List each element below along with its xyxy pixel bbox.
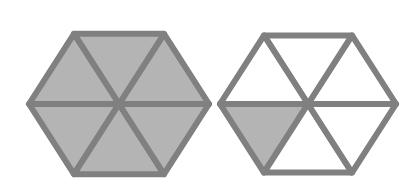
hexagon-left [29,34,209,174]
hexagon-figure [0,0,420,195]
figure-canvas [0,0,420,195]
hexagon-right [220,35,396,172]
